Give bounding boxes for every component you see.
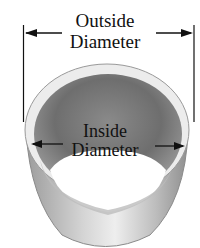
inside-label-line2: Diameter [55,141,155,160]
outside-diameter-label: Outside Diameter [60,10,150,52]
inside-label-line1: Inside [55,122,155,141]
pipe-diameter-diagram: Outside Diameter Inside Diameter [0,0,200,248]
outside-label-line2: Diameter [60,31,150,52]
outside-label-line1: Outside [60,10,150,31]
inside-diameter-label: Inside Diameter [55,122,155,160]
arrowhead-left-icon [25,29,37,37]
arrowhead-right-icon [181,29,193,37]
